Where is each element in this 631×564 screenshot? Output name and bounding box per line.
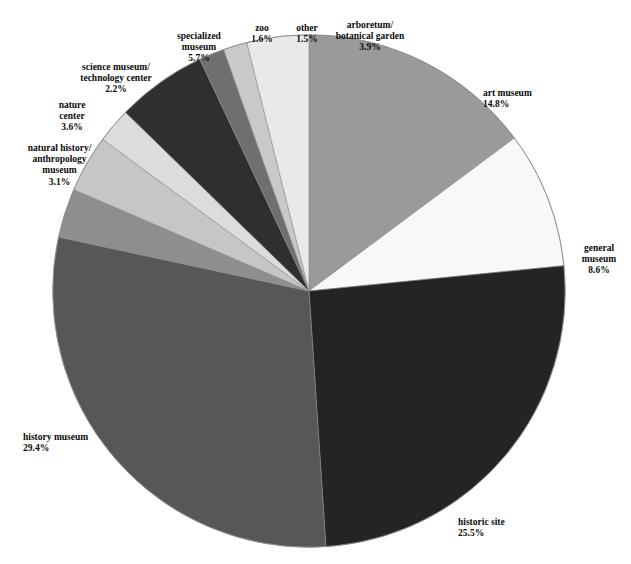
slice-label-nature-center-line2: center [34,111,110,122]
slice-label-arboretum: arboretum/ botanical garden 3.9% [316,20,424,54]
slice-label-art-museum: art museum 14.8% [483,88,532,110]
slice-label-general-museum: general museum 8.6% [570,243,628,277]
slice-label-zoo-pct: 1.6% [243,34,281,45]
pie-chart-page: art museum 14.8% general museum 8.6% his… [0,0,631,564]
pie-svg [52,34,566,548]
slice-label-history-museum-name: history museum [23,432,88,442]
slice-label-science-museum-pct: 2.2% [57,84,175,95]
slice-label-art-museum-name: art museum [483,88,532,98]
slice-label-historic-site-name: historic site [458,517,505,527]
pie-slices [53,35,565,547]
slice-label-general-museum-line2: museum [570,254,628,265]
slice-label-arboretum-line2: botanical garden [316,31,424,42]
slice-label-natural-history-pct: 3.1% [6,177,113,188]
slice-label-natural-history-line1: natural history/ [28,143,92,153]
slice-label-history-museum-pct: 29.4% [23,443,88,454]
slice-label-specialized-museum-pct: 5.7% [155,53,243,64]
slice-label-science-museum: science museum/ technology center 2.2% [57,62,175,96]
slice-label-nature-center-pct: 3.6% [34,122,110,133]
pie-slice-historic-site[interactable] [309,266,565,547]
slice-label-historic-site-pct: 25.5% [458,528,505,539]
slice-label-specialized-museum: specialized museum 5.7% [155,31,243,65]
slice-label-natural-history-line3: museum [6,165,113,176]
slice-label-arboretum-pct: 3.9% [316,42,424,53]
slice-label-history-museum: history museum 29.4% [23,432,88,454]
slice-label-science-museum-line2: technology center [57,73,175,84]
slice-label-specialized-museum-line1: specialized [177,31,221,41]
slice-label-nature-center: nature center 3.6% [34,100,110,134]
slice-label-general-museum-pct: 8.6% [570,265,628,276]
slice-label-art-museum-pct: 14.8% [483,99,532,110]
slice-label-natural-history: natural history/ anthropology museum 3.1… [6,143,113,188]
slice-label-general-museum-line1: general [584,243,614,253]
slice-label-zoo-name: zoo [255,23,269,33]
slice-label-nature-center-line1: nature [59,100,86,110]
slice-label-historic-site: historic site 25.5% [458,517,505,539]
slice-label-specialized-museum-line2: museum [155,42,243,53]
slice-label-natural-history-line2: anthropology [6,154,113,165]
chart-title [0,0,631,2]
slice-label-science-museum-line1: science museum/ [82,62,150,72]
slice-label-other-name: other [296,23,318,33]
slice-label-arboretum-line1: arboretum/ [347,20,393,30]
pie-chart [52,34,566,548]
slice-label-zoo: zoo 1.6% [243,23,281,45]
